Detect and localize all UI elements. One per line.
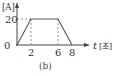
y-tick-20: 20 [5,14,18,25]
origin-label: 0 [4,40,10,51]
current-series-line [17,19,72,45]
x-tick-8: 8 [69,47,75,58]
x-axis-arrow-icon [84,43,90,47]
y-axis-arrow-icon [15,2,19,8]
x-tick-2: 2 [28,47,34,58]
x-tick-6: 6 [55,47,61,58]
x-axis-variable: t [93,40,98,51]
chart-canvas: [A] 20 0 2 6 8 t [초] (b) [0,0,114,76]
y-axis-label: [A] [2,2,15,12]
figure-caption: (b) [39,61,52,71]
x-axis-unit: [초] [99,42,112,51]
